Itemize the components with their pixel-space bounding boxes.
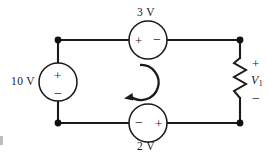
source-10v-plus-sign: + — [54, 69, 61, 82]
page-edge-artifact — [0, 136, 3, 145]
circuit-schematic-canvas — [0, 0, 267, 159]
resistor-plus-sign: + — [252, 57, 259, 70]
node-top-left-dot — [55, 37, 62, 44]
resistor-voltage-symbol: V — [251, 73, 258, 87]
source-3v-plus-sign: + — [135, 34, 142, 47]
source-2v-minus-sign: − — [135, 116, 143, 130]
node-top-right-dot — [237, 37, 244, 44]
source-10v-value-label: 10 V — [11, 76, 35, 88]
source-3v-value-label: 3 V — [137, 7, 155, 19]
source-10v-minus-sign: − — [54, 87, 62, 101]
resistor-voltage-label: V1 — [251, 74, 262, 86]
circuit-diagram: 3 V + − 10 V + − 2 V − + + − V1 — [0, 0, 267, 159]
node-bottom-right-dot — [237, 120, 244, 127]
source-3v-minus-sign: − — [153, 33, 161, 47]
source-2v-value-label: 2 V — [137, 141, 155, 153]
mesh-current-arc — [130, 65, 159, 100]
node-bottom-left-dot — [55, 120, 62, 127]
resistor-voltage-subscript: 1 — [259, 79, 263, 88]
source-2v-plus-sign: + — [155, 117, 162, 130]
resistor-zigzag-symbol — [234, 58, 246, 98]
mesh-current-arrowhead — [124, 93, 133, 100]
resistor-minus-sign: − — [252, 92, 260, 106]
